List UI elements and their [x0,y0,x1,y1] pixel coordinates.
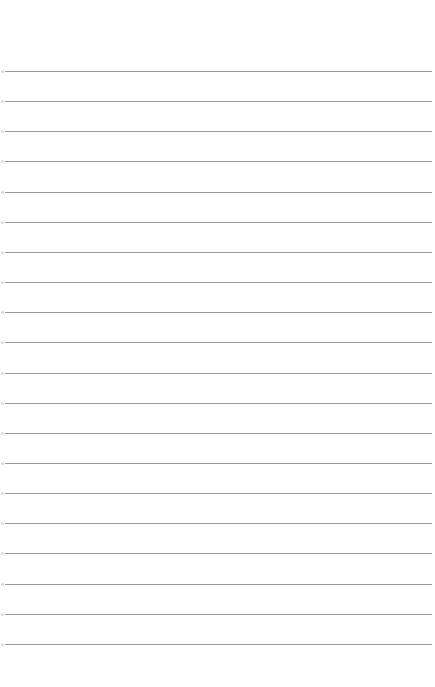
lined-paper-page [0,0,435,687]
ruled-line [5,614,432,615]
ruled-line [5,463,432,464]
ruled-line [5,192,432,193]
ruled-line [5,131,432,132]
ruled-line [5,373,432,374]
ruled-line [5,71,432,72]
ruled-line [5,523,432,524]
ruled-line [5,433,432,434]
ruled-line [5,312,432,313]
ruled-line [5,493,432,494]
ruled-line [5,342,432,343]
ruled-line [5,403,432,404]
ruled-line [5,252,432,253]
ruled-line [5,101,432,102]
ruled-line [5,222,432,223]
ruled-line [5,161,432,162]
ruled-line [5,553,432,554]
ruled-line [5,584,432,585]
ruled-line [5,282,432,283]
ruled-line [5,644,432,645]
